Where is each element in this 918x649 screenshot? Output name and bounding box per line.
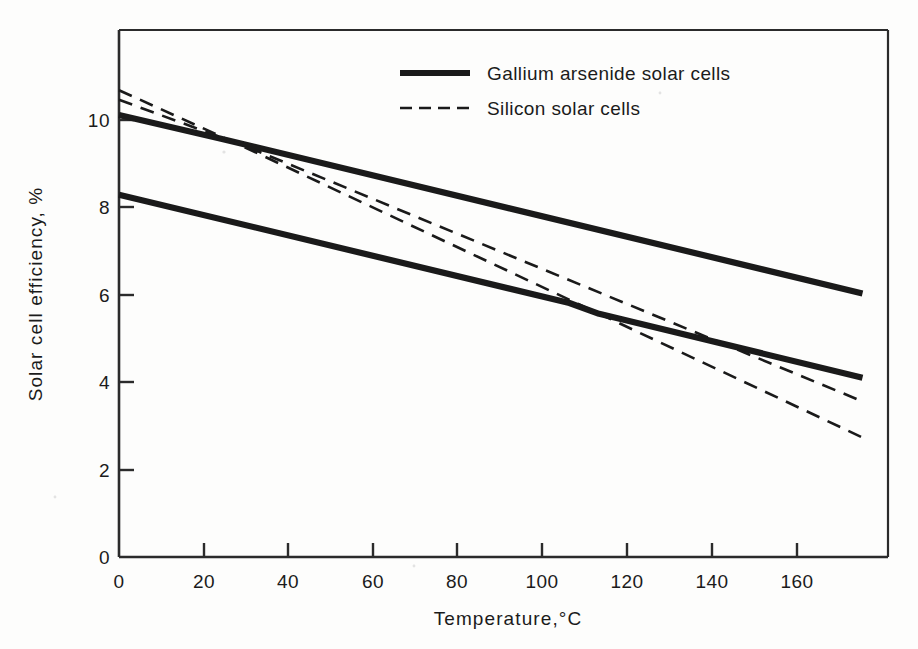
y-tick-label-0: 0 bbox=[99, 547, 110, 568]
legend-label-gallium-arsenide: Gallium arsenide solar cells bbox=[487, 63, 731, 84]
x-tick-label-80: 80 bbox=[446, 571, 468, 592]
x-tick-label-60: 60 bbox=[362, 571, 384, 592]
x-axis-title: Temperature,°C bbox=[434, 608, 583, 629]
x-tick-label-100: 100 bbox=[525, 571, 558, 592]
y-tick-label-2: 2 bbox=[99, 460, 110, 481]
y-tick-label-4: 4 bbox=[99, 372, 110, 393]
x-tick-label-20: 20 bbox=[193, 571, 215, 592]
x-tick-label-120: 120 bbox=[610, 571, 643, 592]
y-tick-label-6: 6 bbox=[99, 285, 110, 306]
x-tick-label-140: 140 bbox=[695, 571, 728, 592]
figure-canvas: 10 8 6 4 2 0 0 20 40 60 80 100 120 140 1… bbox=[0, 0, 918, 649]
y-tick-label-10: 10 bbox=[88, 110, 110, 131]
x-tick-label-0: 0 bbox=[113, 571, 124, 592]
x-tick-label-160: 160 bbox=[780, 571, 813, 592]
chart-svg: 10 8 6 4 2 0 0 20 40 60 80 100 120 140 1… bbox=[0, 0, 918, 649]
y-tick-label-8: 8 bbox=[99, 197, 110, 218]
chart-background bbox=[0, 0, 918, 649]
x-tick-label-40: 40 bbox=[277, 571, 299, 592]
legend-label-silicon: Silicon solar cells bbox=[487, 98, 640, 119]
y-axis-title: Solar cell efficiency, % bbox=[25, 187, 46, 402]
